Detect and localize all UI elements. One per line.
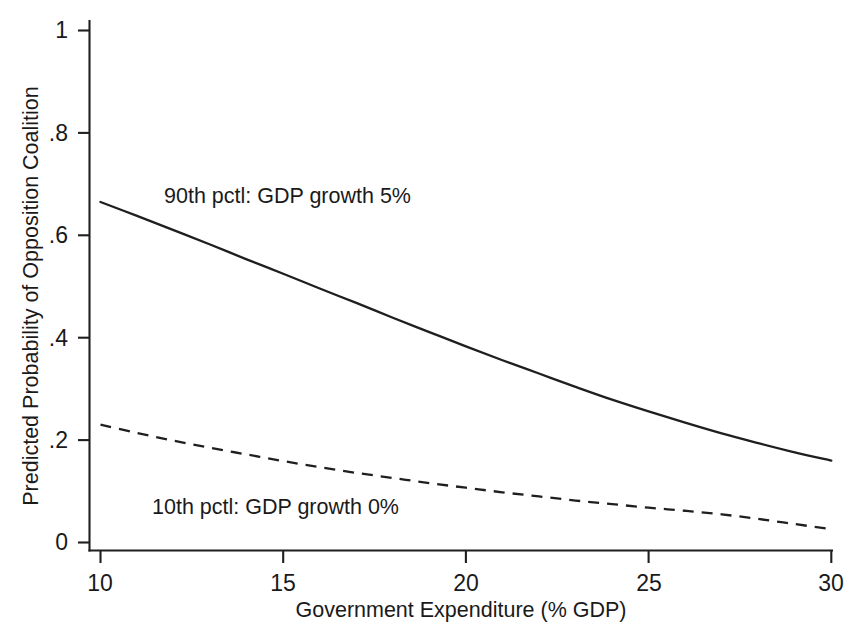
x-tick-label-25: 25: [636, 572, 662, 595]
x-tick-label-10: 10: [87, 572, 113, 595]
y-axis-ticks: [78, 31, 90, 543]
x-tick-label-20: 20: [453, 572, 479, 595]
x-axis-label: Government Expenditure (% GDP): [90, 600, 832, 622]
annotation-90th-pctl: 90th pctl: GDP growth 5%: [164, 186, 411, 208]
x-tick-label-15: 15: [270, 572, 296, 595]
series-line-90th-pctl: [101, 202, 832, 461]
x-axis-ticks: [101, 551, 832, 564]
x-tick-label-30: 30: [818, 572, 844, 595]
y-axis-label: Predicted Probability of Opposition Coal…: [14, 36, 48, 556]
chart-figure: 1 .8 .6 .4 .2 0 10 15 20 25 30 Predicted…: [0, 0, 853, 639]
annotation-10th-pctl: 10th pctl: GDP growth 0%: [152, 497, 399, 519]
plot-canvas: [0, 0, 853, 639]
